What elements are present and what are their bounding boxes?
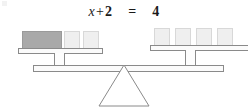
balance-scale-diagram: x+2=4 [0,0,248,107]
equation-left-constant: 2 [105,4,112,19]
equation-variable: x [89,4,95,19]
equation-plus-operator: + [95,4,105,19]
fulcrum-triangle [98,64,150,107]
equation-label: x+2=4 [0,4,248,20]
equation-right-constant: 4 [152,4,159,19]
equation-equals-operator: = [128,4,136,19]
right-pan-plate [150,45,248,51]
right-pan-hanger [185,50,196,66]
fulcrum-icon [98,64,150,107]
